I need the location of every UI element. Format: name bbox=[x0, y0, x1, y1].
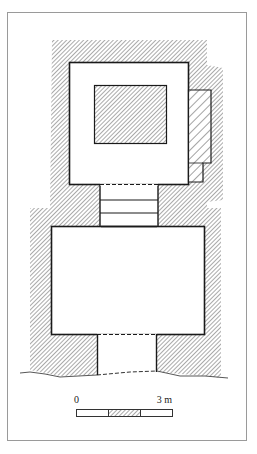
entrance-passage bbox=[97, 334, 157, 374]
lower-room bbox=[52, 227, 205, 335]
stair-passage bbox=[100, 184, 158, 227]
scale-middle-segment bbox=[109, 410, 141, 417]
floor-plan-drawing: 0 3 m bbox=[0, 0, 257, 454]
central-block bbox=[95, 86, 167, 144]
scale-end-label: 3 m bbox=[157, 394, 173, 405]
scale-start-label: 0 bbox=[74, 394, 79, 405]
